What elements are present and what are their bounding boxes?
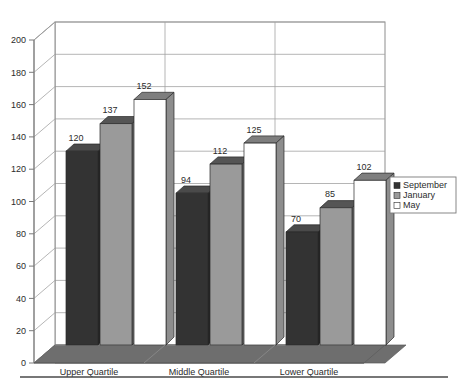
bar-front-face — [134, 100, 166, 346]
y-tick-label: 40 — [16, 294, 26, 304]
legend-label: January — [403, 190, 436, 200]
bar-value-label: 137 — [102, 105, 117, 115]
bar-value-label: 112 — [213, 146, 227, 156]
y-tick-label: 100 — [11, 197, 26, 207]
bar-front-face — [286, 232, 318, 345]
y-axis-ticks — [29, 40, 34, 363]
bar-front-face — [354, 180, 386, 345]
y-tick-label: 60 — [16, 261, 26, 271]
bar-side-face — [276, 136, 284, 345]
bar-side-face — [166, 92, 174, 345]
bar-chart-3d: 200 180 160 140 120 100 80 60 40 20 0 — [0, 0, 466, 387]
y-tick-label: 20 — [16, 326, 26, 336]
bar-value-label: 120 — [68, 133, 83, 143]
bar-front-face — [176, 193, 208, 345]
bar-value-label: 94 — [181, 175, 191, 185]
legend-swatch-september — [394, 183, 400, 189]
y-tick-label: 120 — [11, 164, 26, 174]
y-tick-label: 180 — [11, 68, 26, 78]
bar-value-label: 125 — [246, 125, 261, 135]
y-tick-label: 200 — [11, 35, 26, 45]
x-category-label: Lower Quartile — [280, 367, 339, 377]
y-tick-label: 160 — [11, 100, 26, 110]
bar-value-label: 70 — [291, 214, 301, 224]
chart-container: 200 180 160 140 120 100 80 60 40 20 0 — [0, 0, 466, 387]
y-tick-label: 140 — [11, 132, 26, 142]
y-tick-label: 80 — [16, 229, 26, 239]
legend-label: September — [403, 180, 447, 190]
bar-value-label: 102 — [356, 162, 371, 172]
x-axis-category-labels: Upper Quartile Middle Quartile Lower Qua… — [60, 367, 339, 377]
legend-swatch-may — [394, 203, 400, 209]
y-tick-label: 0 — [21, 358, 26, 368]
bar-front-face — [210, 164, 242, 345]
bar-may-lower-quartile[interactable] — [354, 173, 394, 345]
y-axis-tick-labels: 200 180 160 140 120 100 80 60 40 20 0 — [11, 35, 26, 368]
bar-value-label: 152 — [136, 81, 151, 91]
x-category-label: Upper Quartile — [60, 367, 119, 377]
bar-front-face — [244, 143, 276, 345]
bar-front-face — [320, 208, 352, 345]
legend: September January May — [390, 177, 456, 213]
legend-label: May — [403, 200, 421, 210]
bar-front-face — [100, 124, 132, 345]
bar-may-upper-quartile[interactable] — [134, 92, 174, 345]
bar-may-middle-quartile[interactable] — [244, 136, 284, 345]
x-category-label: Middle Quartile — [169, 367, 230, 377]
plot-floor-front — [34, 345, 385, 363]
bar-front-face — [66, 151, 98, 345]
legend-swatch-january — [394, 193, 400, 199]
bar-value-label: 85 — [325, 189, 335, 199]
